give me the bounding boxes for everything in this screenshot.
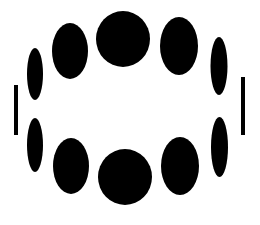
upper-far-right-ellipse: [211, 37, 228, 95]
bottom-center-circle: [98, 149, 152, 205]
lower-far-right-ellipse: [211, 117, 228, 177]
bottom-right-ellipse: [161, 137, 199, 195]
upper-far-left-ellipse: [27, 48, 43, 100]
ellipse-ring-figure: [0, 0, 260, 225]
top-center-circle: [96, 11, 150, 67]
bottom-left-ellipse: [53, 138, 89, 194]
left-vertical-bar: [14, 85, 18, 135]
right-vertical-bar: [241, 77, 245, 135]
lower-far-left-ellipse: [27, 118, 43, 172]
top-left-ellipse: [52, 23, 88, 79]
top-right-ellipse: [160, 17, 198, 75]
